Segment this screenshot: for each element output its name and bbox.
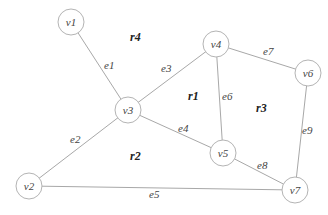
edge-e5: [29, 186, 295, 190]
edge-label-e1: e1: [104, 59, 114, 71]
edge-e3: [128, 44, 216, 110]
edge-label-e5: e5: [149, 188, 160, 200]
edge-label-e8: e8: [257, 159, 268, 171]
node-label-v7: v7: [290, 184, 301, 196]
region-label-r2: r2: [130, 149, 141, 163]
node-label-v1: v1: [66, 16, 76, 28]
node-label-v4: v4: [211, 38, 222, 50]
region-label-r1: r1: [188, 89, 199, 103]
planar-graph-diagram: e1 e2 e3 e4 e5 e6 e7 e8 e9 v1 v2 v3 v4 v…: [0, 0, 328, 215]
edge-e7: [216, 44, 308, 73]
node-v6: v6: [295, 60, 321, 86]
region-label-r4: r4: [130, 30, 141, 44]
region-label-r3: r3: [256, 101, 267, 115]
edge-label-e4: e4: [178, 122, 189, 134]
node-v7: v7: [282, 177, 308, 203]
node-label-v2: v2: [24, 180, 35, 192]
node-v5: v5: [210, 140, 236, 166]
node-v3: v3: [115, 97, 141, 123]
node-label-v3: v3: [123, 104, 134, 116]
edge-e2: [29, 110, 128, 186]
node-v4: v4: [203, 31, 229, 57]
node-v1: v1: [58, 9, 84, 35]
edge-label-e9: e9: [302, 124, 313, 136]
edge-label-e7: e7: [263, 45, 274, 57]
node-label-v5: v5: [218, 147, 229, 159]
edge-label-e2: e2: [70, 133, 81, 145]
node-v2: v2: [16, 173, 42, 199]
node-label-v6: v6: [303, 67, 314, 79]
edge-e1: [71, 22, 128, 110]
edge-label-e3: e3: [161, 62, 172, 74]
edge-e4: [128, 110, 223, 153]
edge-label-e6: e6: [222, 90, 233, 102]
